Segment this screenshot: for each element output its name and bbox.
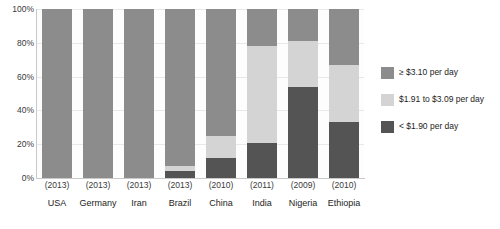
x-axis-label-group: (2009)Nigeria [281, 181, 325, 208]
x-axis-label-group: (2010)Ethiopia [322, 181, 366, 208]
x-axis-category-label: Nigeria [281, 198, 325, 208]
bar-column [42, 9, 72, 178]
x-axis-year-label: (2013) [76, 181, 120, 191]
bar-column [206, 9, 236, 178]
bar-segment [329, 122, 359, 178]
x-axis-label-group: (2013)Germany [76, 181, 120, 208]
y-axis-tick-label: 20% [2, 140, 34, 149]
legend-label: ≥ $3.10 per day [399, 68, 458, 77]
x-axis-category-label: Brazil [158, 198, 202, 208]
x-axis-category-label: Ethiopia [322, 198, 366, 208]
x-axis-year-label: (2010) [322, 181, 366, 191]
x-axis-year-label: (2011) [240, 181, 284, 191]
chart-legend: ≥ $3.10 per day$1.91 to $3.09 per day< $… [381, 66, 500, 147]
bar-segment [329, 65, 359, 122]
x-axis-category-label: India [240, 198, 284, 208]
bar-group [36, 9, 364, 178]
bar-segment [288, 87, 318, 178]
x-axis-category-label: Iran [117, 198, 161, 208]
bar-segment [288, 41, 318, 87]
x-axis-label-group: (2013)Brazil [158, 181, 202, 208]
bar-segment [165, 171, 195, 178]
y-axis-tick-label: 80% [2, 39, 34, 48]
bar-column [165, 9, 195, 178]
bar-column [83, 9, 113, 178]
y-axis-tick-label: 60% [2, 73, 34, 82]
bar-segment [288, 9, 318, 41]
x-axis-label-group: (2011)India [240, 181, 284, 208]
legend-swatch [381, 94, 394, 106]
y-axis-tick-label: 40% [2, 106, 34, 115]
x-axis-label-group: (2013)Iran [117, 181, 161, 208]
bar-segment [124, 9, 154, 178]
y-axis-tick-label: 100% [2, 5, 34, 14]
y-axis-tick-label: 0% [2, 174, 34, 183]
bar-segment [206, 9, 236, 136]
x-axis-year-label: (2009) [281, 181, 325, 191]
bar-segment [247, 46, 277, 142]
bar-segment [329, 9, 359, 65]
x-axis-category-label: Germany [76, 198, 120, 208]
legend-item: ≥ $3.10 per day [381, 66, 500, 80]
bar-segment [165, 9, 195, 166]
legend-label: < $1.90 per day [399, 122, 458, 131]
bar-segment [206, 136, 236, 158]
x-axis-line [36, 178, 365, 179]
bar-segment [165, 166, 195, 171]
x-axis-label-group: (2010)China [199, 181, 243, 208]
x-axis-category-label: China [199, 198, 243, 208]
bar-column [329, 9, 359, 178]
x-axis-year-label: (2013) [35, 181, 79, 191]
y-axis-tick-labels: 0%20%40%60%80%100% [0, 0, 34, 229]
bar-segment [42, 9, 72, 178]
x-axis-year-label: (2010) [199, 181, 243, 191]
legend-swatch [381, 67, 394, 79]
bar-column [288, 9, 318, 178]
legend-label: $1.91 to $3.09 per day [399, 95, 484, 104]
bar-column [247, 9, 277, 178]
legend-swatch [381, 121, 394, 133]
stacked-bar-chart: 0%20%40%60%80%100% (2013)USA(2013)German… [0, 0, 500, 229]
bar-segment [206, 158, 236, 178]
legend-item: < $1.90 per day [381, 120, 500, 134]
bar-segment [247, 9, 277, 46]
legend-item: $1.91 to $3.09 per day [381, 93, 500, 107]
x-axis-year-label: (2013) [117, 181, 161, 191]
x-axis-category-label: USA [35, 198, 79, 208]
bar-segment [83, 9, 113, 178]
bar-segment [247, 143, 277, 178]
x-axis-labels: (2013)USA(2013)Germany(2013)Iran(2013)Br… [36, 181, 364, 225]
x-axis-label-group: (2013)USA [35, 181, 79, 208]
x-axis-year-label: (2013) [158, 181, 202, 191]
bar-column [124, 9, 154, 178]
